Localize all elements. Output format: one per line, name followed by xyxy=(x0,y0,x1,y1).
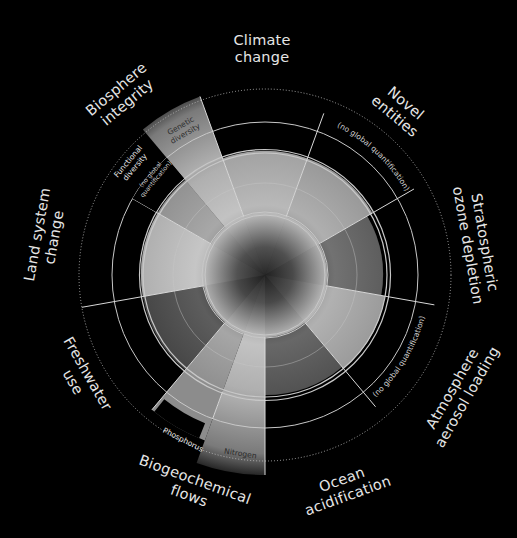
label-stratospheric-ozone-depletion: Stratospheric ozone depletion xyxy=(450,182,503,305)
earth-center-disk xyxy=(203,213,327,337)
label-ocean-acidification: Ocean acidification xyxy=(297,457,393,519)
label-biosphere-integrity: Biosphere integrity xyxy=(83,59,161,132)
label-atmosphere-aerosol-loading: Atmosphere aerosol loading xyxy=(417,335,502,450)
planetary-boundaries-diagram: Climate change Novel entities Stratosphe… xyxy=(0,0,517,538)
svg-text:Climate: Climate xyxy=(233,32,290,48)
label-land-system-change: Land system change xyxy=(21,186,70,285)
label-novel-entities: Novel entities xyxy=(368,79,432,140)
label-freshwater-use: Freshwater use xyxy=(46,334,116,421)
novel-entities-note: (no global quantification) xyxy=(336,120,412,192)
diagram-canvas: Climate change Novel entities Stratosphe… xyxy=(0,0,517,538)
label-climate-change: Climate change xyxy=(233,32,290,65)
svg-text:change: change xyxy=(235,49,290,65)
